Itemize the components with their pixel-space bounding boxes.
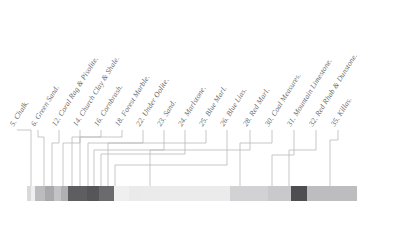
strata-key-figure: 5. Chalk.6. Green Sand.12. Coral Rag & P… (0, 0, 417, 225)
colorbar-segment[interactable] (99, 186, 113, 201)
colorbar-layer (0, 0, 417, 225)
colorbar-segment[interactable] (129, 186, 143, 201)
colorbar-segment[interactable] (61, 186, 68, 201)
colorbar-segment[interactable] (268, 186, 290, 201)
strata-colorbar[interactable] (27, 186, 357, 201)
colorbar-segment[interactable] (143, 186, 231, 201)
colorbar-segment[interactable] (230, 186, 268, 201)
colorbar-segment[interactable] (114, 186, 129, 201)
colorbar-segment[interactable] (307, 186, 357, 201)
colorbar-segment[interactable] (35, 186, 45, 201)
colorbar-segment[interactable] (291, 186, 307, 201)
colorbar-segment[interactable] (87, 186, 99, 201)
colorbar-segment[interactable] (68, 186, 87, 201)
colorbar-segment[interactable] (54, 186, 61, 201)
colorbar-segment[interactable] (45, 186, 54, 201)
